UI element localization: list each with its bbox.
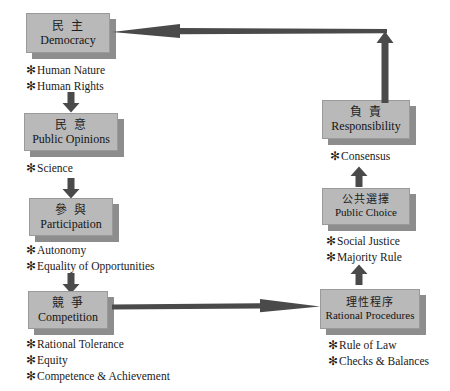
bullet-text: Majority Rule <box>337 251 402 263</box>
bullet-text: Human Rights <box>37 80 104 92</box>
node-label-cn: 參 與 <box>55 204 88 217</box>
node-label-cn: 競 爭 <box>52 297 85 310</box>
bullet-item: ✻Competence & Achievement <box>26 368 170 384</box>
arrow-down-democracy-to-public-opinions <box>62 92 80 113</box>
arrow-up-responsibility-riser <box>376 31 394 103</box>
bullet-item: ✻Checks & Balances <box>328 353 429 369</box>
bullet-marker-icon: ✻ <box>330 148 341 164</box>
node-face: 公共選擇 Public Choice <box>322 188 410 225</box>
node-face: 競 爭 Competition <box>28 291 108 329</box>
bullet-text: Social Justice <box>337 235 400 247</box>
node-responsibility[interactable]: 負 責 Responsibility <box>322 100 410 139</box>
bullet-marker-icon: ✻ <box>26 336 37 352</box>
bullet-marker-icon: ✻ <box>26 62 37 78</box>
bullet-marker-icon: ✻ <box>26 242 37 258</box>
node-label-cn: 公共選擇 <box>342 194 390 206</box>
bullets-under-participation: ✻Autonomy ✻Equality of Opportunities <box>26 242 155 274</box>
bullet-item: ✻Social Justice <box>326 233 402 249</box>
bullet-text: Competence & Achievement <box>37 370 170 382</box>
arrow-down-public-opinions-to-participation <box>62 178 80 199</box>
node-label-cn: 負 責 <box>350 106 383 119</box>
node-label-cn: 民 意 <box>55 119 88 132</box>
node-label-en: Rational Procedures <box>326 310 415 322</box>
node-label-en: Competition <box>38 311 98 324</box>
arrow-right-competition-to-rational-procedures <box>112 299 320 315</box>
bullet-item: ✻Rational Tolerance <box>26 336 170 352</box>
bullet-text: Science <box>37 162 73 174</box>
node-public-opinions[interactable]: 民 意 Public Opinions <box>24 113 118 151</box>
bullet-item: ✻Autonomy <box>26 242 155 258</box>
bullets-under-responsibility: ✻Consensus <box>330 148 390 164</box>
node-participation[interactable]: 參 與 Participation <box>29 198 113 236</box>
node-label-en: Participation <box>40 218 101 231</box>
bullet-item: ✻Majority Rule <box>326 249 402 265</box>
bullets-under-competition: ✻Rational Tolerance ✻Equity ✻Competence … <box>26 336 170 384</box>
bullet-text: Autonomy <box>37 244 86 256</box>
node-label-cn: 理性程序 <box>346 297 394 309</box>
bullet-marker-icon: ✻ <box>26 160 37 176</box>
node-face: 負 責 Responsibility <box>322 100 410 139</box>
bullet-text: Rational Tolerance <box>37 338 124 350</box>
bullet-text: Equality of Opportunities <box>37 260 155 272</box>
bullet-item: ✻Equity <box>26 352 170 368</box>
bullet-marker-icon: ✻ <box>328 337 339 353</box>
bullet-item: ✻Equality of Opportunities <box>26 258 155 274</box>
node-label-en: Democracy <box>40 34 95 47</box>
arrow-up-rational-procedures-to-public-choice <box>350 264 368 285</box>
node-label-en: Public Opinions <box>32 133 110 146</box>
bullet-text: Equity <box>37 354 68 366</box>
bullet-marker-icon: ✻ <box>26 78 37 94</box>
bullets-under-public-choice: ✻Social Justice ✻Majority Rule <box>326 233 402 265</box>
bullet-item: ✻Human Nature <box>26 62 105 78</box>
bullet-text: Consensus <box>341 150 390 162</box>
bullet-item: ✻Science <box>26 160 73 176</box>
bullet-marker-icon: ✻ <box>26 368 37 384</box>
bullet-text: Rule of Law <box>339 339 396 351</box>
bullet-marker-icon: ✻ <box>326 233 337 249</box>
node-face: 理性程序 Rational Procedures <box>320 289 420 329</box>
bullets-under-rational-procedures: ✻Rule of Law ✻Checks & Balances <box>328 337 429 369</box>
arrow-up-public-choice-to-responsibility <box>350 166 368 187</box>
node-rational-procedures[interactable]: 理性程序 Rational Procedures <box>320 289 420 329</box>
arrow-left-responsibility-to-democracy <box>112 24 387 40</box>
bullets-under-democracy: ✻Human Nature ✻Human Rights <box>26 62 105 94</box>
bullet-marker-icon: ✻ <box>26 352 37 368</box>
node-label-en: Public Choice <box>335 207 397 219</box>
diagram-canvas: 民 主 Democracy ✻Human Nature ✻Human Right… <box>0 0 450 391</box>
bullet-text: Human Nature <box>37 64 105 76</box>
bullet-item: ✻Consensus <box>330 148 390 164</box>
bullet-marker-icon: ✻ <box>326 249 337 265</box>
node-competition[interactable]: 競 爭 Competition <box>28 291 108 329</box>
node-public-choice[interactable]: 公共選擇 Public Choice <box>322 188 410 225</box>
node-democracy[interactable]: 民 主 Democracy <box>26 13 110 53</box>
node-face: 民 意 Public Opinions <box>24 113 118 151</box>
bullet-text: Checks & Balances <box>339 355 429 367</box>
bullet-marker-icon: ✻ <box>328 353 339 369</box>
bullets-under-public-opinions: ✻Science <box>26 160 73 176</box>
node-face: 參 與 Participation <box>29 198 113 236</box>
node-label-cn: 民 主 <box>52 20 85 33</box>
bullet-item: ✻Rule of Law <box>328 337 429 353</box>
bullet-marker-icon: ✻ <box>26 258 37 274</box>
node-label-en: Responsibility <box>331 120 400 133</box>
node-face: 民 主 Democracy <box>26 13 110 53</box>
